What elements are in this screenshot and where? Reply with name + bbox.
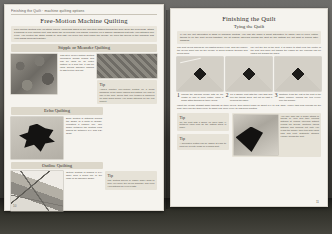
tip-body: Always practice free-motion quilting on …	[100, 88, 155, 103]
tip-heading: Tip	[180, 115, 227, 120]
right-body-text: Insert the needle straight down through …	[177, 104, 321, 110]
tip-body: Tie the quilt with a space no more than …	[180, 121, 227, 130]
tying-steps-list: 1 Thread the darning needle with an 18" …	[177, 57, 321, 101]
step-item: 1 Thread the darning needle with an 18" …	[177, 57, 223, 101]
tip-body: Use quilting gloves or rubber finger gri…	[108, 179, 155, 188]
stipple-detail-photo	[97, 54, 157, 78]
needle-icon	[180, 58, 201, 63]
right-page-intro: If you are not interested in hand or mac…	[177, 31, 321, 44]
tying-step-1-photo	[177, 57, 223, 91]
feature-block: You may also use a single strand of thre…	[232, 113, 321, 157]
right-page-title: Finishing the Quilt	[177, 15, 321, 22]
step-number: 2	[226, 93, 229, 102]
tip-box-3: Tip Tie the quilt with a space no more t…	[177, 113, 229, 132]
section-heading-stipple: Stipple or Meander Quilting	[11, 44, 157, 52]
right-column-2: Lay out the top of the quilt. It is easi…	[251, 46, 322, 55]
section-body-outline: Outline quilting is sewing a 1/4" away f…	[66, 171, 102, 211]
tip-box-1: Tip Always practice free-motion quilting…	[97, 80, 157, 105]
outline-quilting-photo	[11, 171, 63, 211]
stipple-quilting-photo	[11, 54, 57, 94]
section-heading-outline: Outline Quilting	[11, 162, 103, 170]
running-head: Finishing the Quilt · machine quilting o…	[11, 9, 157, 15]
tip-body: A decorative button can be added at each…	[180, 142, 227, 148]
left-page-intro: Free-motion quilting lets you stitch cur…	[11, 26, 157, 42]
right-page-subtitle: Tying the Quilt	[177, 24, 321, 29]
section-body-stipple: This style of free-motion quilting meand…	[60, 54, 94, 105]
right-page: Finishing the Quilt Tying the Quilt If y…	[170, 8, 328, 207]
step-caption: Continue tying the rest of the quilt in …	[279, 93, 321, 102]
step-item: 3 Continue tying the rest of the quilt i…	[275, 57, 321, 101]
left-page: Finishing the Quilt · machine quilting o…	[4, 4, 164, 211]
feature-caption: You may also use a single strand of thre…	[281, 115, 319, 155]
step-number: 3	[275, 93, 278, 102]
tip-heading: Tip	[100, 82, 155, 87]
tied-quilt-closeup-photo	[234, 115, 278, 155]
right-column-1: The quilt layers should be pin-basted be…	[177, 46, 248, 55]
tip-heading: Tip	[180, 136, 227, 141]
section-body-echo: Echo quilting is stitching around the sh…	[66, 117, 102, 159]
tip-box-4: Tip A decorative button can be added at …	[177, 134, 229, 150]
step-number: 1	[177, 93, 180, 102]
left-page-title: Free-Motion Machine Quilting	[11, 17, 157, 24]
book-spread: Finishing the Quilt · machine quilting o…	[0, 0, 332, 234]
tying-step-3-photo	[275, 57, 321, 91]
tip-box-2: Tip Use quilting gloves or rubber finger…	[105, 171, 157, 190]
page-number-left: 10	[13, 204, 16, 208]
page-number-right: 11	[316, 200, 319, 204]
section-heading-echo: Echo Quilting	[11, 107, 103, 115]
step-caption: Thread the darning needle with an 18" le…	[181, 93, 223, 102]
step-item: 2 Tie a square knot with the yarn tails …	[226, 57, 272, 101]
tip-heading: Tip	[108, 173, 155, 178]
step-caption: Tie a square knot with the yarn tails an…	[230, 93, 272, 102]
echo-quilting-photo	[11, 117, 63, 159]
tying-step-2-photo	[226, 57, 272, 91]
